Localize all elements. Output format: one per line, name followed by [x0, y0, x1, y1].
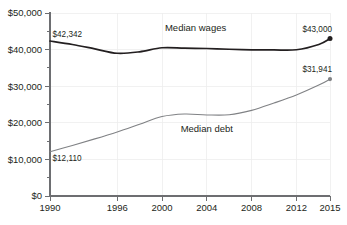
x-axis-tick-label: 2008 [241, 202, 262, 213]
series-line-median-wages [50, 39, 330, 54]
x-axis-tick-label: 1996 [107, 202, 128, 213]
series-lines [50, 36, 333, 152]
x-axis-tick-label: 2015 [319, 202, 340, 213]
y-axis-tick-label: $30,000 [8, 81, 42, 92]
y-axis-tick-label: $20,000 [8, 117, 42, 128]
series-label-median-debt: Median debt [181, 123, 234, 134]
x-axis-tick-label: 2000 [151, 202, 172, 213]
y-axis-tick-label: $0 [31, 190, 42, 201]
start-value-label-median-debt: $12,110 [53, 154, 82, 163]
grid-lines [50, 13, 330, 196]
y-axis-tick-label: $40,000 [8, 44, 42, 55]
end-value-label-median-debt: $31,941 [302, 65, 332, 74]
series-label-median-wages: Median wages [165, 22, 227, 33]
x-axis-tick-label: 2012 [286, 202, 307, 213]
chart-container: $0$10,000$20,000$30,000$40,000$50,000199… [0, 0, 347, 225]
y-axis-tick-label: $10,000 [8, 154, 42, 165]
y-axis-tick-label: $50,000 [8, 7, 42, 18]
end-point-marker-median-debt [328, 77, 332, 81]
x-axis-tick-label: 2004 [196, 202, 217, 213]
x-axis-tick-label: 1990 [39, 202, 60, 213]
line-chart: $0$10,000$20,000$30,000$40,000$50,000199… [0, 0, 347, 225]
series-line-median-debt [50, 79, 330, 152]
end-value-label-median-wages: $43,000 [302, 25, 332, 34]
tick-marks [45, 13, 330, 201]
axes [50, 12, 330, 196]
start-value-label-median-wages: $42,342 [53, 30, 83, 39]
end-point-marker-median-wages [328, 36, 333, 41]
chart-labels: $0$10,000$20,000$30,000$40,000$50,000199… [8, 7, 341, 213]
